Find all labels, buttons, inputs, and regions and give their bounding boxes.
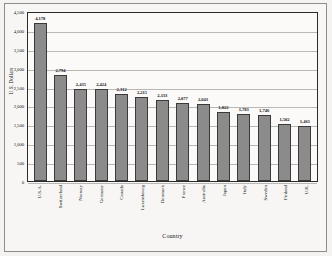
bar-value-label: 2,043 bbox=[198, 97, 208, 102]
bar-slot: 2,077 bbox=[173, 13, 193, 181]
x-axis-title: Country bbox=[27, 233, 318, 239]
bar-slot: 1,502 bbox=[274, 13, 294, 181]
y-axis-tick-label: 2,500 bbox=[14, 85, 24, 90]
x-axis-tick-label: U.K. bbox=[303, 185, 308, 195]
bar bbox=[34, 23, 47, 181]
x-axis-tick-label: France bbox=[180, 185, 185, 198]
bar-value-label: 2,133 bbox=[157, 93, 167, 98]
bar-value-label: 2,077 bbox=[178, 96, 188, 101]
x-axis-tick-labels: U.S.A.SwitzerlandNorwayGermanyCanadaLuxe… bbox=[27, 184, 318, 230]
y-axis-tick-label: 3,500 bbox=[14, 47, 24, 52]
bar-slot: 1,783 bbox=[234, 13, 254, 181]
y-axis-tick-label: 3,000 bbox=[14, 66, 24, 71]
bar-slot: 2,794 bbox=[50, 13, 70, 181]
x-axis-tick-label: Italy bbox=[242, 185, 247, 194]
x-axis-slot: Switzerland bbox=[50, 184, 71, 230]
x-axis-slot: Sweden bbox=[255, 184, 276, 230]
x-axis-slot: Canada bbox=[111, 184, 132, 230]
y-axis-tick-labels: 4,5004,0003,5003,0002,5002,0001,5001,000… bbox=[0, 12, 26, 182]
bar bbox=[176, 103, 189, 181]
x-axis-tick-label: U.S.A. bbox=[37, 185, 42, 198]
x-axis-tick-label: Denmark bbox=[160, 185, 165, 203]
bar-value-label: 1,461 bbox=[300, 119, 310, 124]
bar-value-label: 1,822 bbox=[218, 105, 228, 110]
x-axis-tick-label: Sweden bbox=[262, 185, 267, 201]
bar-value-label: 2,424 bbox=[96, 82, 106, 87]
bar bbox=[278, 124, 291, 181]
bar-slot: 2,215 bbox=[132, 13, 152, 181]
bar bbox=[298, 126, 311, 181]
bar-value-label: 1,502 bbox=[279, 117, 289, 122]
x-axis-tick-label: Luxembourg bbox=[139, 185, 144, 210]
x-axis-slot: Finland bbox=[275, 184, 296, 230]
bar-slot: 4,178 bbox=[30, 13, 50, 181]
bar-value-label: 2,794 bbox=[55, 68, 65, 73]
x-axis-slot: U.S.A. bbox=[29, 184, 50, 230]
x-axis-slot: U.K. bbox=[296, 184, 317, 230]
x-axis-slot: Luxembourg bbox=[132, 184, 153, 230]
bar bbox=[135, 97, 148, 181]
bar bbox=[237, 114, 250, 181]
plot-area: 4,1782,7942,4352,4242,3122,2152,1332,077… bbox=[27, 12, 318, 182]
bar-value-label: 1,746 bbox=[259, 108, 269, 113]
x-axis-slot: Australia bbox=[193, 184, 214, 230]
x-axis-slot: Norway bbox=[70, 184, 91, 230]
x-axis-slot: Japan bbox=[214, 184, 235, 230]
bar-slot: 1,822 bbox=[213, 13, 233, 181]
y-axis-tick-label: 500 bbox=[17, 161, 24, 166]
bar-slot: 2,133 bbox=[152, 13, 172, 181]
bar-slot: 2,312 bbox=[111, 13, 131, 181]
bar-slot: 2,424 bbox=[91, 13, 111, 181]
bar bbox=[217, 112, 230, 181]
x-axis-slot: Denmark bbox=[152, 184, 173, 230]
x-axis-tick-label: Germany bbox=[98, 185, 103, 203]
y-axis-tick-label: 1,000 bbox=[14, 142, 24, 147]
bar bbox=[95, 89, 108, 181]
bar-value-label: 4,178 bbox=[35, 16, 45, 21]
x-axis-tick-label: Australia bbox=[201, 185, 206, 203]
y-axis-tick-label: 0 bbox=[22, 180, 24, 185]
y-axis-tick-label: 1,500 bbox=[14, 123, 24, 128]
bar-value-label: 1,783 bbox=[239, 107, 249, 112]
x-axis-tick-label: Japan bbox=[221, 185, 226, 196]
bar-value-label: 2,215 bbox=[137, 90, 147, 95]
x-axis-slot: Germany bbox=[91, 184, 112, 230]
bar-value-label: 2,435 bbox=[76, 82, 86, 87]
bar-slot: 2,435 bbox=[71, 13, 91, 181]
x-axis-slot: Italy bbox=[234, 184, 255, 230]
bar bbox=[54, 75, 67, 181]
x-axis-tick-label: Canada bbox=[119, 185, 124, 200]
bar bbox=[258, 115, 271, 181]
y-axis-tick-label: 4,500 bbox=[14, 10, 24, 15]
bar bbox=[156, 100, 169, 181]
bar-value-label: 2,312 bbox=[117, 87, 127, 92]
bar bbox=[115, 94, 128, 181]
chart-page: U.S. Dollars 4,5004,0003,5003,0002,5002,… bbox=[0, 0, 332, 256]
bar-slot: 1,746 bbox=[254, 13, 274, 181]
bar bbox=[74, 89, 87, 181]
x-axis-tick-label: Norway bbox=[78, 185, 83, 201]
y-axis-tick-label: 4,000 bbox=[14, 28, 24, 33]
x-axis-slot: France bbox=[173, 184, 194, 230]
bar-slot: 1,461 bbox=[295, 13, 315, 181]
bar-slot: 2,043 bbox=[193, 13, 213, 181]
y-axis-tick-label: 2,000 bbox=[14, 104, 24, 109]
x-axis-tick-label: Switzerland bbox=[57, 185, 62, 208]
x-axis-tick-label: Finland bbox=[283, 185, 288, 200]
bar bbox=[197, 104, 210, 181]
bar-series: 4,1782,7942,4352,4242,3122,2152,1332,077… bbox=[28, 13, 317, 181]
